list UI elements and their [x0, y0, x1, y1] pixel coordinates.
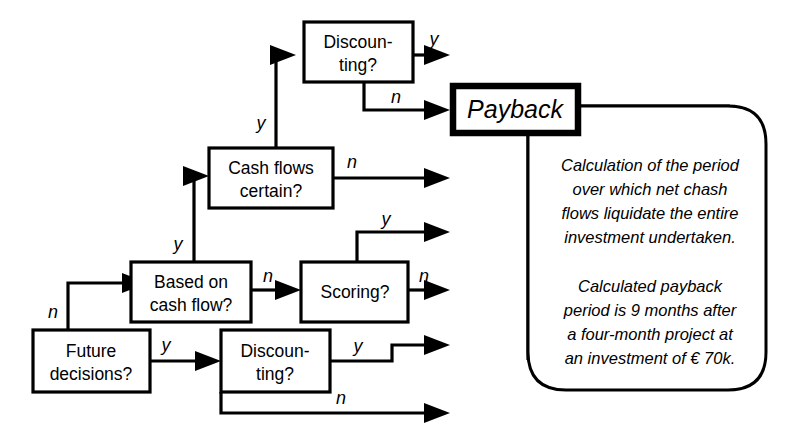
- edge-based-on-cash-flow-yes: [183, 166, 209, 263]
- edge-label-cash-flows-certain-yes: y: [255, 113, 267, 133]
- edge-label-scoring-yes: y: [380, 209, 392, 229]
- node-based-on-cash-flow-line2: cash flow?: [150, 295, 233, 315]
- diagram-canvas: Discoun- ting? Cash flows certain? Based…: [0, 0, 785, 439]
- node-scoring[interactable]: Scoring?: [301, 262, 408, 322]
- node-payback-label: Payback: [467, 95, 564, 123]
- callout-p2-line1: Calculated payback: [578, 277, 723, 295]
- edge-label-based-on-cash-flow-yes: y: [172, 234, 184, 254]
- edge-discounting-top-no: [364, 82, 450, 120]
- node-cash-flows-certain-line2: certain?: [240, 181, 303, 201]
- edge-label-discounting-top-no: n: [391, 87, 401, 107]
- callout-p2-line2: period is 9 months after: [563, 301, 738, 319]
- edge-label-based-on-cash-flow-no: n: [263, 266, 273, 286]
- edge-label-discounting-top-yes: y: [428, 29, 440, 49]
- node-cash-flows-certain[interactable]: Cash flows certain?: [209, 148, 333, 208]
- edge-cash-flows-certain-yes: [270, 45, 296, 148]
- node-discounting-top[interactable]: Discoun- ting?: [304, 22, 413, 82]
- node-discounting-bottom[interactable]: Discoun- ting?: [221, 330, 330, 392]
- edge-based-on-cash-flow-no: [251, 280, 301, 300]
- edge-label-discounting-bottom-no: n: [336, 388, 346, 408]
- node-based-on-cash-flow-line1: Based on: [154, 272, 228, 292]
- node-future-decisions[interactable]: Future decisions?: [33, 330, 150, 392]
- node-future-decisions-line1: Future: [66, 341, 117, 361]
- node-scoring-line1: Scoring?: [320, 282, 389, 302]
- callout-p1-line4: investment undertaken.: [564, 228, 736, 246]
- node-future-decisions-line2: decisions?: [50, 364, 133, 384]
- node-discounting-bottom-line1: Discoun-: [240, 341, 309, 361]
- callout-p2-line4: an investment of € 70k.: [565, 349, 736, 367]
- flowchart-svg: Discoun- ting? Cash flows certain? Based…: [0, 0, 785, 439]
- callout-p1-line2: over which net chash: [572, 180, 727, 198]
- callout-p2-line3: a four-month project at: [567, 325, 734, 343]
- node-payback-result[interactable]: Payback: [453, 86, 578, 133]
- callout-p1-line1: Calculation of the period: [561, 156, 740, 174]
- edge-label-scoring-no: n: [419, 266, 429, 286]
- edge-discounting-bottom-yes: [330, 335, 450, 361]
- edge-label-cash-flows-certain-no: n: [347, 152, 357, 172]
- edge-label-future-decisions-yes: y: [160, 335, 172, 355]
- callout-p1-line3: flows liquidate the entire: [561, 204, 738, 222]
- callout-balloon: [528, 106, 766, 390]
- edge-label-discounting-bottom-yes: y: [352, 336, 364, 356]
- node-cash-flows-certain-line1: Cash flows: [228, 158, 314, 178]
- node-discounting-top-line2: ting?: [339, 55, 377, 75]
- edge-label-future-decisions-no: n: [48, 302, 58, 322]
- edge-scoring-yes: [357, 222, 450, 262]
- node-based-on-cash-flow[interactable]: Based on cash flow?: [131, 262, 251, 322]
- node-discounting-bottom-line2: ting?: [256, 364, 294, 384]
- node-discounting-top-line1: Discoun-: [323, 32, 392, 52]
